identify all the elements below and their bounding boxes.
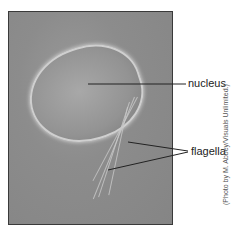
photo-credit: (Photo by M. Abbey/Visuals Unlimited.) bbox=[222, 84, 229, 205]
leader-lines bbox=[0, 0, 245, 235]
nucleus-label: nucleus bbox=[188, 77, 226, 89]
flagella-label: flagella bbox=[191, 145, 226, 157]
